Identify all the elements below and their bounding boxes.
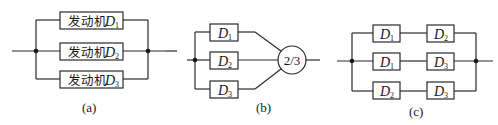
junction-node xyxy=(193,58,198,63)
block-d2: D 2 xyxy=(210,52,238,70)
svg-text:1: 1 xyxy=(390,62,394,71)
reliability-diagrams: 发动机 D 1 发动机 D 2 发动机 D 3 (a) xyxy=(0,0,498,125)
svg-text:2: 2 xyxy=(390,91,394,100)
svg-text:2/3: 2/3 xyxy=(284,53,301,68)
block-row2-d3: D 3 xyxy=(427,53,454,71)
block-row3-d2: D 2 xyxy=(373,82,400,100)
svg-text:1: 1 xyxy=(228,33,232,42)
block-row1-d2: D 2 xyxy=(427,25,454,43)
diagram-b: D 1 D 2 D 3 2/3 (b) xyxy=(165,24,320,115)
svg-text:3: 3 xyxy=(444,62,448,71)
block-d3: D 3 xyxy=(210,81,238,99)
svg-text:D: D xyxy=(379,27,390,42)
svg-text:D: D xyxy=(433,84,444,99)
svg-text:1: 1 xyxy=(115,21,119,30)
svg-text:D: D xyxy=(217,54,228,69)
svg-text:D: D xyxy=(379,84,390,99)
svg-text:发动机: 发动机 xyxy=(68,45,107,60)
diagram-c: D 1 D 2 D 1 D 3 D 2 D 3 (c) xyxy=(337,25,493,119)
junction-node xyxy=(146,49,151,54)
junction-node xyxy=(34,49,39,54)
svg-text:D: D xyxy=(104,14,115,29)
svg-text:D: D xyxy=(217,26,228,41)
svg-text:2: 2 xyxy=(444,34,448,43)
svg-text:D: D xyxy=(379,55,390,70)
svg-text:发动机: 发动机 xyxy=(68,73,107,88)
block-engine-d2: 发动机 D 2 xyxy=(60,43,123,61)
junction-node xyxy=(350,59,355,64)
caption-a: (a) xyxy=(82,100,96,115)
svg-text:1: 1 xyxy=(390,34,394,43)
block-engine-d3: 发动机 D 3 xyxy=(60,71,123,89)
svg-text:3: 3 xyxy=(115,80,119,89)
svg-text:2: 2 xyxy=(115,52,119,61)
svg-text:D: D xyxy=(433,55,444,70)
block-row1-d1: D 1 xyxy=(373,25,400,43)
svg-text:发动机: 发动机 xyxy=(68,14,107,29)
svg-text:D: D xyxy=(433,27,444,42)
block-d1: D 1 xyxy=(210,24,238,42)
voter-node: 2/3 xyxy=(278,46,306,74)
diagram-a: 发动机 D 1 发动机 D 2 发动机 D 3 (a) xyxy=(12,12,165,115)
caption-c: (c) xyxy=(409,104,423,119)
svg-text:3: 3 xyxy=(228,90,232,99)
svg-text:2: 2 xyxy=(228,61,232,70)
junction-node xyxy=(474,59,479,64)
svg-text:3: 3 xyxy=(444,91,448,100)
svg-text:D: D xyxy=(217,83,228,98)
svg-text:D: D xyxy=(104,73,115,88)
svg-text:D: D xyxy=(104,45,115,60)
caption-b: (b) xyxy=(256,100,271,115)
block-row3-d3: D 3 xyxy=(427,82,454,100)
block-row2-d1: D 1 xyxy=(373,53,400,71)
block-engine-d1: 发动机 D 1 xyxy=(60,12,123,30)
